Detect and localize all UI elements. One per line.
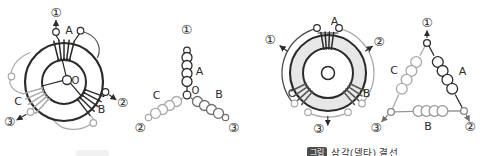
y-stator-diagram: ① ② ③ A B C O	[4, 5, 128, 129]
delta-schematic-terminal-3-label: ③	[370, 120, 381, 135]
y-stator-terminal-2-label: ②	[117, 95, 128, 110]
y-stator-phase-a-label: A	[65, 24, 73, 37]
y-stator-phase-b-lead	[102, 89, 109, 97]
delta-stator-phase-c-label: C	[288, 87, 296, 100]
delta-schematic-phase-a-label: A	[459, 65, 467, 78]
delta-schematic-top-vertex	[424, 40, 431, 47]
y-schematic-phase-c-label: C	[153, 89, 161, 102]
delta-schematic-diagram: ① ③ ② A C B	[370, 15, 475, 135]
delta-schematic-bottom-left-vertex	[388, 109, 395, 116]
y-stator-terminal-1-label: ①	[50, 5, 61, 20]
delta-stator-terminal-1-arrow	[280, 46, 287, 51]
delta-schematic-terminal-1-label: ①	[421, 15, 432, 30]
delta-schematic-phase-a-side	[429, 46, 463, 108]
delta-schematic-terminal-2-label: ②	[464, 119, 475, 134]
y-schematic-terminal-1-label: ①	[181, 22, 192, 37]
delta-schematic-phase-c-label: C	[390, 64, 398, 77]
y-schematic-terminal-2-label: ②	[134, 120, 145, 135]
figure-page: ① ② ③ A B C O ① ③	[0, 0, 483, 156]
y-schematic-phase-c-branch	[145, 97, 184, 121]
caption-tag-box: 그림	[307, 147, 327, 156]
y-schematic-phase-b-label: B	[215, 88, 223, 101]
delta-schematic-bottom-right-vertex	[461, 108, 468, 115]
delta-stator-phase-b-label: B	[363, 87, 371, 100]
caption-text: 삼각(델타) 결선	[331, 147, 398, 156]
delta-stator-diagram: ① ② ③ A B C	[264, 15, 384, 135]
y-schematic-phase-a-branch	[182, 47, 192, 91]
y-stator-phase-c-label: C	[14, 95, 22, 108]
y-schematic-terminal-3-label: ③	[228, 120, 239, 135]
delta-schematic-phase-b-side	[395, 106, 461, 117]
y-schematic-neutral-circle	[183, 91, 191, 99]
delta-stator-terminal-2-label: ②	[373, 34, 384, 49]
delta-schematic-terminal-3-arrow	[382, 116, 388, 122]
delta-schematic-phase-b-label: B	[424, 120, 432, 133]
y-schematic-diagram: ① ③ ② A B C O	[134, 22, 239, 135]
caption-left-tag-box	[76, 150, 109, 156]
y-stator-terminal-3-arrow	[17, 115, 26, 120]
y-schematic-neutral-label: O	[192, 85, 200, 96]
caption-right: 그림 삼각(델타) 결선	[307, 147, 398, 156]
y-stator-phase-c-lead	[27, 109, 36, 116]
y-schematic-phase-a-label: A	[196, 65, 204, 78]
delta-stator-terminal-3-label: ③	[313, 121, 324, 136]
figure-canvas: ① ② ③ A B C O ① ③	[0, 0, 483, 156]
y-stator-terminal-3-label: ③	[4, 114, 15, 129]
y-schematic-phase-b-branch	[190, 97, 229, 121]
delta-stator-shaft-circle	[322, 67, 335, 80]
y-stator-neutral-label: O	[72, 75, 80, 86]
y-stator-neutral-circle	[63, 76, 72, 85]
y-stator-phase-b-label: B	[98, 103, 106, 116]
delta-stator-terminal-1-label: ①	[264, 32, 275, 47]
y-stator-terminal-2-arrow	[110, 95, 117, 100]
delta-stator-phase-a-label: A	[331, 15, 339, 28]
